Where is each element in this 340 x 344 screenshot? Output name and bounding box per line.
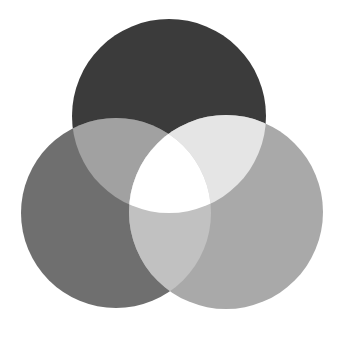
venn-diagram xyxy=(0,0,340,344)
